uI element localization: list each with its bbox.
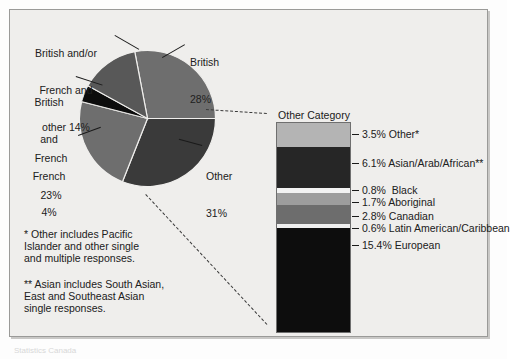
bar-segment-european[interactable] bbox=[277, 228, 350, 332]
bar-tick-canadian bbox=[352, 216, 359, 217]
pie-label-line: 31% bbox=[206, 207, 276, 219]
chart-frame: British and/or French and other 14% Brit… bbox=[9, 9, 488, 337]
bar-tick-black bbox=[352, 190, 359, 191]
pie-label-line: French bbox=[16, 152, 86, 164]
bar-tick-european bbox=[352, 245, 359, 246]
bar-label-european: 15.4% European bbox=[362, 239, 440, 251]
pie-label-line: British bbox=[190, 56, 260, 68]
pie-label-french: French 23% bbox=[16, 128, 86, 226]
bar-tick-other bbox=[352, 134, 359, 135]
pie-label-line: 28% bbox=[190, 93, 260, 105]
bar-segment-canadian[interactable] bbox=[277, 205, 350, 224]
bar-segment-asian[interactable] bbox=[277, 147, 350, 188]
bar-label-black: 0.8% Black bbox=[362, 184, 417, 196]
bar-label-other: 3.5% Other* bbox=[362, 128, 419, 140]
breakout-heading-line: Other Category bbox=[255, 109, 373, 121]
bar-tick-latin bbox=[352, 228, 359, 229]
bar-segment-other[interactable] bbox=[277, 123, 350, 147]
pie-label-line: 23% bbox=[16, 189, 86, 201]
footnote-asian: ** Asian includes South Asian, East and … bbox=[24, 278, 234, 315]
bar-tick-aboriginal bbox=[352, 202, 359, 203]
source-credit: Statistics Canada bbox=[14, 346, 76, 355]
bar-label-aboriginal: 1.7% Aboriginal bbox=[362, 196, 435, 208]
footnote-other: * Other includes Pacific Islander and ot… bbox=[24, 228, 214, 265]
bar-label-asian: 6.1% Asian/Arab/African** bbox=[362, 157, 483, 169]
bar-segment-aboriginal[interactable] bbox=[277, 193, 350, 204]
bar-label-latin: 0.6% Latin American/Caribbean bbox=[362, 222, 510, 234]
pie-label-line: British and/or bbox=[18, 47, 114, 59]
bar-tick-asian bbox=[352, 163, 359, 164]
bar-label-canadian: 2.8% Canadian bbox=[362, 210, 434, 222]
pie-label-british: British 28% bbox=[190, 32, 260, 130]
breakout-stacked-bar bbox=[276, 122, 351, 333]
pie-label-line: British bbox=[14, 96, 84, 108]
leader-line-british-french-other bbox=[115, 35, 140, 50]
